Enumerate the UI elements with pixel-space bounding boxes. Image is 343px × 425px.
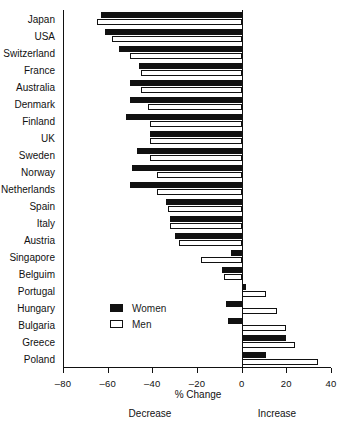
bar-men [130, 53, 242, 59]
category-label: Spain [29, 201, 55, 212]
bar-men [141, 87, 242, 93]
legend-label-men: Men [132, 319, 151, 330]
legend-swatch-women-icon [110, 304, 123, 312]
bar-men [168, 206, 242, 212]
bar-women [231, 250, 242, 256]
bar-women [242, 335, 287, 341]
legend-swatch-men-icon [110, 320, 123, 328]
bar-men [242, 359, 318, 365]
bar-women [139, 63, 242, 69]
category-axis-labels: JapanUSASwitzerlandFranceAustraliaDenmar… [0, 10, 59, 368]
category-label: Japan [28, 13, 55, 24]
category-label: Netherlands [1, 184, 55, 195]
x-axis-tick-label: –60 [99, 378, 115, 389]
bar-women [130, 182, 242, 188]
x-axis-tick-label: 40 [326, 378, 337, 389]
bar-men [141, 70, 242, 76]
bar-men [179, 240, 242, 246]
bar-men [150, 155, 242, 161]
legend-label-women: Women [132, 303, 166, 314]
category-label: USA [34, 30, 55, 41]
chart-legend: Women Men [110, 300, 166, 332]
x-axis-tick-label: –20 [189, 378, 205, 389]
bar-men [150, 138, 242, 144]
x-axis-tick-label: –40 [144, 378, 160, 389]
x-axis-tick-label: 20 [281, 378, 292, 389]
bar-men [201, 257, 241, 263]
bar-women [130, 80, 242, 86]
bar-chart: JapanUSASwitzerlandFranceAustraliaDenmar… [0, 0, 343, 425]
x-axis-title: % Change [175, 389, 222, 400]
bar-men [224, 274, 242, 280]
bar-men [157, 172, 242, 178]
x-axis-tick-label: 0 [239, 378, 244, 389]
bar-men [242, 342, 296, 348]
x-axis-tick [197, 368, 198, 373]
y-axis-line [63, 10, 64, 368]
increase-annotation: Increase [258, 408, 296, 419]
category-label: Hungary [17, 303, 55, 314]
bar-women [126, 114, 242, 120]
x-axis-tick [108, 368, 109, 373]
category-label: Italy [37, 218, 55, 229]
category-label: Portugal [18, 286, 55, 297]
bar-women [132, 165, 241, 171]
bar-men [148, 104, 242, 110]
bar-women [170, 216, 241, 222]
category-label: Sweden [19, 149, 55, 160]
x-axis-tick [152, 368, 153, 373]
decrease-annotation: Decrease [129, 408, 172, 419]
bar-women [166, 199, 242, 205]
x-axis-tick [242, 368, 243, 373]
bar-women [175, 233, 242, 239]
bar-men [157, 189, 242, 195]
category-label: France [24, 64, 55, 75]
x-axis-tick [331, 368, 332, 373]
legend-item-men: Men [110, 316, 166, 332]
category-label: UK [41, 132, 55, 143]
bar-men [97, 19, 242, 25]
category-label: Belguim [19, 269, 55, 280]
category-label: Austria [24, 235, 55, 246]
bar-women [242, 352, 267, 358]
category-label: Denmark [14, 98, 55, 109]
category-label: Singapore [9, 252, 55, 263]
bar-men [242, 291, 267, 297]
bar-men [150, 121, 242, 127]
bar-women [228, 318, 241, 324]
bar-women [101, 12, 242, 18]
plot-area: –80–60–40–2002040 [63, 10, 331, 368]
bar-women [242, 284, 246, 290]
bar-women [137, 148, 242, 154]
bar-women [105, 29, 241, 35]
x-axis-tick-label: –80 [55, 378, 71, 389]
bar-men [170, 223, 241, 229]
bar-men [242, 325, 287, 331]
category-label: Bulgaria [18, 320, 55, 331]
bar-women [119, 46, 242, 52]
category-label: Australia [16, 81, 55, 92]
category-label: Finland [22, 115, 55, 126]
category-label: Greece [22, 337, 55, 348]
category-label: Norway [21, 166, 55, 177]
x-axis-tick [286, 368, 287, 373]
category-label: Switzerland [3, 47, 55, 58]
legend-item-women: Women [110, 300, 166, 316]
bar-women [130, 97, 242, 103]
bar-women [150, 131, 242, 137]
bar-women [222, 267, 242, 273]
bar-women [226, 301, 242, 307]
x-axis-tick [63, 368, 64, 373]
bar-men [242, 308, 278, 314]
category-label: Poland [24, 354, 55, 365]
bar-men [112, 36, 242, 42]
